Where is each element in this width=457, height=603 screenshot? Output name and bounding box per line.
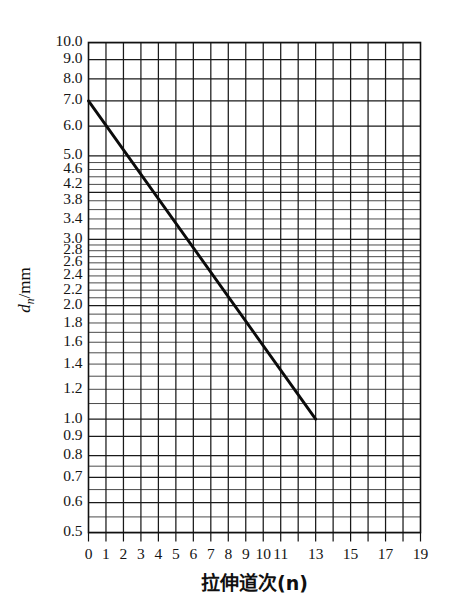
x-tick-label: 19 [413,545,429,562]
y-tick-label: 7.0 [63,90,83,107]
x-tick-label: 3 [137,545,145,562]
y-tick-label: 2.0 [63,295,83,312]
y-tick-label: 4.2 [63,174,82,191]
x-tick-label: 11 [273,545,288,562]
x-tick-label: 9 [242,545,250,562]
y-tick-label: 0.5 [63,522,83,539]
x-tick-label: 5 [172,545,180,562]
x-tick-label: 10 [255,545,271,562]
y-tick-label: 6.0 [63,116,83,133]
y-tick-label: 1.8 [63,313,83,330]
x-axis-title: 拉伸道次(n) [201,572,308,594]
y-tick-label: 3.4 [63,209,83,226]
y-tick-label: 1.6 [63,332,83,349]
y-tick-label: 0.6 [63,492,83,509]
y-tick-label: 0.9 [63,426,83,443]
y-tick-label: 3.8 [63,190,83,207]
x-axis-tick-labels: 0123456789101113151719 [85,545,429,562]
y-tick-label: 9.0 [63,49,83,66]
x-tick-label: 0 [85,545,93,562]
semilog-line-chart: 10.09.08.07.06.05.04.64.23.83.43.02.82.6… [0,0,457,603]
x-tick-label: 15 [343,545,359,562]
x-tick-label: 6 [189,545,197,562]
y-tick-label: 1.4 [63,354,83,371]
x-tick-label: 13 [308,545,324,562]
x-tick-label: 4 [155,545,163,562]
y-tick-label: 1.2 [63,379,82,396]
y-tick-label: 0.7 [63,467,83,484]
x-tick-label: 1 [102,545,110,562]
x-tick-label: 7 [207,545,215,562]
y-tick-label: 1.0 [63,409,83,426]
y-tick-label: 10.0 [55,32,82,49]
x-tick-label: 2 [120,545,128,562]
svg-text:dn/mm: dn/mm [15,267,36,312]
y-axis-title-unit: /mm [15,267,34,298]
y-tick-label: 2.2 [63,280,82,297]
x-tick-label: 8 [224,545,232,562]
y-axis-title: dn/mm [15,267,36,312]
y-tick-label: 0.8 [63,445,83,462]
chart-container: 10.09.08.07.06.05.04.64.23.83.43.02.82.6… [0,0,457,603]
x-tick-label: 17 [378,545,394,562]
y-tick-label: 8.0 [63,69,83,86]
